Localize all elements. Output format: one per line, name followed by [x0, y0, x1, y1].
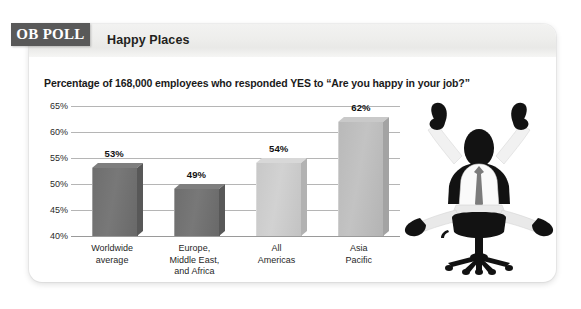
poll-card: Happy Places Percentage of 168,000 emplo…	[29, 24, 556, 282]
bar-side-face	[137, 163, 143, 236]
bar-value-label: 62%	[338, 102, 383, 113]
y-axis-tick-label: 40%	[50, 231, 68, 241]
category-label-line: Europe,	[153, 243, 235, 255]
category-label-line: All	[236, 243, 318, 255]
page-background: Happy Places Percentage of 168,000 emplo…	[0, 0, 581, 309]
y-axis-tick-label: 60%	[50, 127, 68, 137]
page-title: Happy Places	[107, 33, 190, 47]
bar-top-face	[174, 184, 225, 189]
ob-poll-badge: OB POLL	[11, 23, 90, 46]
x-axis-category-label: Europe,Middle East,and Africa	[153, 243, 235, 278]
category-label-line: and Africa	[153, 266, 235, 278]
category-label-line: Americas	[236, 255, 318, 267]
bar-2: 49%	[174, 189, 219, 236]
bar-top-face	[256, 158, 307, 163]
bar-series: 53%49%54%62%	[71, 100, 400, 240]
category-label-line: Asia	[318, 243, 400, 255]
bar-side-face	[219, 184, 225, 236]
bar-front-face	[92, 168, 138, 236]
y-axis-tick-label: 45%	[50, 205, 68, 215]
y-axis-tick-label: 65%	[50, 101, 68, 111]
category-label-line: Pacific	[318, 255, 400, 267]
bar-front-face	[256, 163, 302, 236]
ob-poll-badge-label: OB POLL	[16, 26, 84, 43]
x-axis-category-label: Worldwideaverage	[71, 243, 153, 266]
card-header-band: Happy Places	[29, 24, 556, 58]
x-axis-category-labels: WorldwideaverageEurope,Middle East,and A…	[71, 243, 420, 283]
bar-value-label: 53%	[92, 148, 137, 159]
chart-plot-area: 65%60%55%50%45%40% 53%49%54%62%	[40, 100, 400, 240]
y-axis-tick-label: 50%	[50, 179, 68, 189]
bar-4: 62%	[338, 122, 383, 236]
bar-top-face	[338, 117, 389, 122]
bar-side-face	[301, 158, 307, 236]
bar-1: 53%	[92, 168, 137, 236]
bar-front-face	[174, 189, 220, 236]
category-label-line: Worldwide	[71, 243, 153, 255]
bar-value-label: 49%	[174, 169, 219, 180]
bar-front-face	[338, 122, 384, 236]
bar-3: 54%	[256, 163, 301, 236]
happy-employee-illustration	[404, 100, 554, 275]
x-axis-category-label: AllAmericas	[236, 243, 318, 266]
y-axis: 65%60%55%50%45%40%	[40, 100, 70, 240]
bar-value-label: 54%	[256, 143, 301, 154]
category-label-line: average	[71, 255, 153, 267]
category-label-line: Middle East,	[153, 255, 235, 267]
x-axis-category-label: AsiaPacific	[318, 243, 400, 266]
bar-top-face	[92, 163, 143, 168]
bar-side-face	[383, 117, 389, 236]
y-axis-tick-label: 55%	[50, 153, 68, 163]
chart-subtitle: Percentage of 168,000 employees who resp…	[44, 77, 470, 89]
